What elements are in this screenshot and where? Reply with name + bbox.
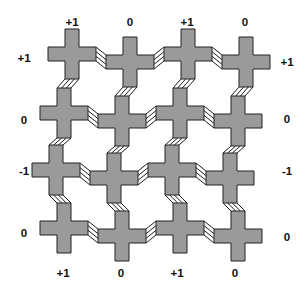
horizontal-bond-ribbon	[146, 221, 156, 243]
ribbon-line	[54, 138, 62, 145]
vertical-bond-ribbon	[107, 146, 129, 153]
bottom-label-1: +1	[56, 267, 70, 279]
ribbon-line	[146, 120, 156, 128]
ribbon-line	[146, 235, 156, 243]
horizontal-bond-ribbon	[138, 163, 148, 185]
ribbon-line	[66, 79, 74, 88]
vertical-bond-ribbon	[107, 203, 129, 211]
left-label-2: 0	[21, 114, 27, 126]
top-label-2: 0	[127, 16, 133, 28]
cross-node-r1c4	[222, 37, 270, 87]
ribbon-line	[212, 52, 222, 60]
ribbon-line	[223, 203, 231, 211]
bottom-label-4: 0	[232, 267, 238, 279]
cross-node-r2c4	[214, 96, 262, 146]
ribbon-line	[212, 47, 222, 55]
ribbon-line	[116, 146, 124, 153]
horizontal-bond-ribbon	[196, 163, 206, 185]
ribbon-line	[71, 79, 79, 88]
cross-node-r4c2	[98, 211, 146, 261]
ribbon-line	[121, 146, 129, 153]
ribbon-line	[204, 235, 214, 243]
ribbon-line	[204, 111, 214, 119]
ribbon-line	[154, 56, 164, 64]
ribbon-line	[62, 79, 70, 88]
ribbon-line	[237, 146, 245, 153]
ribbon-line	[236, 87, 244, 96]
cross-node-r4c3	[156, 203, 204, 253]
ribbon-line	[96, 52, 106, 60]
ribbon-line	[88, 120, 98, 128]
vertical-bond-ribbon	[57, 79, 79, 88]
ribbon-line	[212, 56, 222, 64]
ribbon-line	[204, 221, 214, 229]
ribbon-line	[116, 203, 124, 211]
right-label-2: 0	[284, 113, 290, 125]
left-label-4: 0	[21, 227, 27, 239]
vertical-bond-ribbon	[115, 87, 137, 96]
ribbon-line	[57, 79, 65, 88]
cross-node-r1c1	[48, 29, 96, 79]
ribbon-line	[154, 52, 164, 60]
ribbon-line	[58, 138, 66, 145]
ribbon-line	[107, 203, 115, 211]
ribbon-line	[58, 195, 66, 203]
ribbon-line	[138, 172, 148, 180]
top-label-1: +1	[65, 16, 79, 28]
ribbon-line	[129, 87, 137, 96]
ribbon-line	[146, 226, 156, 234]
horizontal-bond-ribbon	[154, 47, 164, 69]
ribbon-line	[138, 163, 148, 171]
ribbon-line	[80, 163, 90, 171]
vertical-bond-ribbon	[231, 87, 253, 96]
top-label-4: 0	[242, 16, 248, 28]
bottom-label-2: 0	[118, 267, 124, 279]
horizontal-bond-ribbon	[212, 47, 222, 69]
ribbon-line	[178, 79, 186, 88]
ribbon-line	[88, 226, 98, 234]
ribbon-line	[49, 195, 57, 203]
ribbon-line	[124, 87, 132, 96]
ribbon-line	[204, 115, 214, 123]
ribbon-line	[138, 168, 148, 176]
horizontal-bond-ribbon	[204, 106, 214, 128]
ribbon-line	[187, 79, 195, 88]
ribbon-line	[174, 195, 182, 203]
ribbon-line	[165, 195, 173, 203]
ribbon-line	[232, 146, 240, 153]
ribbon-line	[138, 177, 148, 185]
ribbon-line	[115, 87, 123, 96]
ribbon-line	[204, 106, 214, 114]
figure-canvas: +10+10+10+10+10-10+10-10	[0, 0, 299, 294]
right-label-4: 0	[284, 231, 290, 243]
ribbon-line	[231, 87, 239, 96]
ribbon-line	[146, 115, 156, 123]
cross-node-r3c2	[90, 153, 138, 203]
ribbon-line	[240, 87, 248, 96]
vertical-bond-ribbon	[49, 138, 71, 145]
ribbon-line	[223, 146, 231, 153]
ribbon-line	[196, 168, 206, 176]
right-label-1: +1	[280, 56, 294, 68]
vertical-bond-ribbon	[173, 79, 195, 88]
ribbon-line	[154, 47, 164, 55]
crosses-layer	[32, 29, 270, 261]
right-label-3: -1	[282, 165, 293, 177]
ribbon-line	[88, 221, 98, 229]
horizontal-bond-ribbon	[80, 163, 90, 185]
cross-node-r1c3	[164, 29, 212, 79]
vertical-bond-ribbon	[165, 195, 187, 203]
ribbon-line	[179, 195, 187, 203]
ribbon-line	[182, 79, 190, 88]
bottom-label-3: +1	[170, 267, 184, 279]
ribbon-line	[112, 203, 120, 211]
ribbon-line	[80, 168, 90, 176]
left-label-1: +1	[17, 52, 31, 64]
cross-node-r4c1	[40, 203, 88, 253]
ribbon-line	[196, 177, 206, 185]
ribbon-line	[165, 138, 173, 145]
ribbon-line	[179, 138, 187, 145]
ribbon-line	[204, 230, 214, 238]
ribbon-line	[154, 61, 164, 69]
top-label-3: +1	[180, 16, 194, 28]
